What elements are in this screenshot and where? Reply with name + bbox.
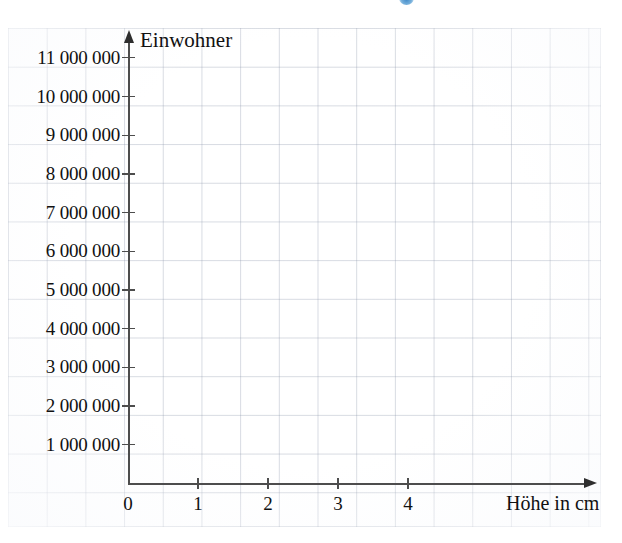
- y-axis-tick-label: 6 000 000: [46, 241, 120, 260]
- y-axis-tick: [122, 328, 135, 329]
- x-axis-tick: [267, 478, 268, 489]
- x-axis-tick-label: 0: [108, 494, 148, 513]
- y-axis-tick-label: 3 000 000: [46, 357, 120, 376]
- y-axis-tick: [122, 289, 135, 290]
- y-axis-tick: [122, 57, 135, 58]
- y-axis-tick: [122, 405, 135, 406]
- y-axis-tick: [122, 212, 135, 213]
- y-axis-tick: [122, 173, 135, 174]
- y-axis-tick-label: 8 000 000: [46, 164, 120, 183]
- y-axis-tick: [122, 251, 135, 252]
- y-axis-tick-label: 1 000 000: [46, 435, 120, 454]
- y-axis-line: [128, 33, 130, 484]
- x-axis-title: Höhe in cm: [506, 493, 599, 513]
- chart-canvas: Einwohner Höhe in cm 1 000 0002 000 0003…: [0, 0, 622, 543]
- x-axis-tick-label: 4: [388, 494, 428, 513]
- x-axis-tick: [407, 478, 408, 489]
- x-axis-tick: [337, 478, 338, 489]
- y-axis-tick-label: 5 000 000: [46, 280, 120, 299]
- x-axis-tick: [197, 478, 198, 489]
- arrow-up-icon: [124, 30, 134, 43]
- y-axis-tick-label: 10 000 000: [36, 87, 120, 106]
- y-axis-tick-label: 4 000 000: [46, 319, 120, 338]
- y-axis-tick: [122, 444, 135, 445]
- y-axis-tick-label: 2 000 000: [46, 396, 120, 415]
- y-axis-tick-label: 9 000 000: [46, 125, 120, 144]
- y-axis-tick: [122, 367, 135, 368]
- x-axis-tick-label: 1: [178, 494, 218, 513]
- y-axis-tick-label: 11 000 000: [37, 48, 120, 67]
- arrow-right-icon: [584, 478, 597, 488]
- axes-layer: Einwohner Höhe in cm 1 000 0002 000 0003…: [0, 0, 622, 543]
- y-axis-tick: [122, 96, 135, 97]
- x-axis-tick-label: 2: [248, 494, 288, 513]
- y-axis-tick-label: 7 000 000: [46, 203, 120, 222]
- x-axis-tick-label: 3: [318, 494, 358, 513]
- y-axis-title: Einwohner: [140, 30, 232, 51]
- y-axis-tick: [122, 135, 135, 136]
